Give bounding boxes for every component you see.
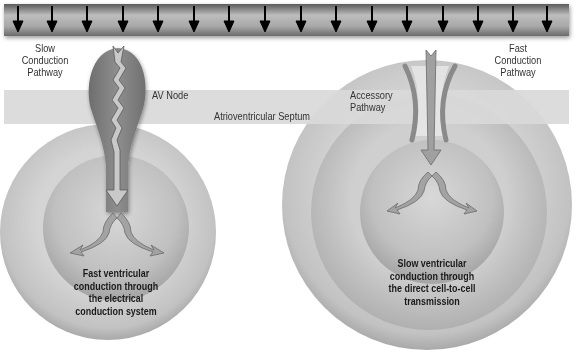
- label-line: Pathway: [483, 66, 553, 78]
- septum-label: Atrioventricular Septum: [214, 110, 320, 122]
- fast-pathway-label: Fast Conduction Pathway: [483, 42, 553, 78]
- caption-line: the electrical: [65, 292, 167, 305]
- caption-line: the direct cell-to-cell: [376, 282, 488, 295]
- caption-line: conduction through: [376, 270, 488, 283]
- caption-line: transmission: [376, 295, 488, 308]
- caption-line: conduction system: [65, 305, 167, 318]
- av-node-label: AV Node: [152, 89, 196, 101]
- atrial-impulse-bar: [4, 4, 569, 36]
- caption-line: conduction through: [65, 280, 167, 293]
- right-caption: Slow ventricular conduction through the …: [376, 257, 488, 307]
- caption-line: Fast ventricular: [65, 267, 167, 280]
- label-line: Fast: [483, 42, 553, 54]
- label-line: Pathway: [9, 66, 81, 78]
- left-caption: Fast ventricular conduction through the …: [65, 267, 167, 317]
- label-line: Pathway: [350, 101, 403, 113]
- label-line: Conduction: [9, 54, 81, 66]
- caption-line: Slow ventricular: [376, 257, 488, 270]
- accessory-pathway-label: Accessory Pathway: [350, 89, 403, 113]
- label-line: Conduction: [483, 54, 553, 66]
- label-line: Slow: [9, 42, 81, 54]
- slow-pathway-label: Slow Conduction Pathway: [9, 42, 81, 78]
- label-line: Accessory: [350, 89, 403, 101]
